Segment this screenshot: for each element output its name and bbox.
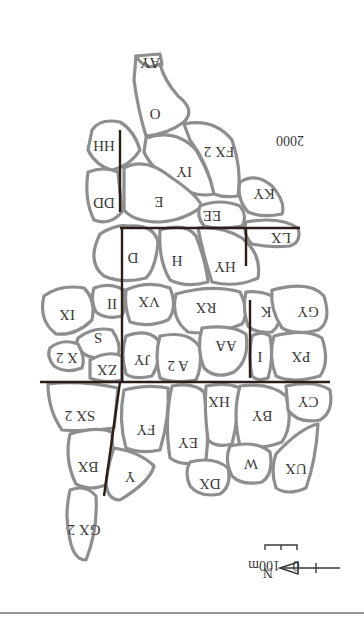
label-KY: KY xyxy=(253,186,275,202)
label-K: K xyxy=(260,304,271,320)
parcel-EY[interactable] xyxy=(167,385,207,464)
parcel-shapes xyxy=(43,54,331,560)
label-FX2: FX 2 xyxy=(204,144,234,160)
north-label: N xyxy=(263,565,273,580)
parcel-D[interactable] xyxy=(94,226,158,281)
label-O: O xyxy=(149,106,160,122)
label-DD: DD xyxy=(93,195,115,211)
label-PX: PX xyxy=(291,349,310,365)
label-AA: AA xyxy=(215,338,237,354)
label-VX: VX xyxy=(138,294,160,310)
label-HX: HX xyxy=(208,394,230,410)
label-LX: LX xyxy=(271,230,291,246)
label-IX: IX xyxy=(59,307,75,323)
label-DX: DX xyxy=(199,476,221,492)
label-HY: HY xyxy=(214,259,236,275)
label-I: I xyxy=(258,349,263,365)
label-E: E xyxy=(154,194,163,210)
label-BX: BX xyxy=(77,459,98,475)
label-RX: RX xyxy=(195,300,216,316)
label-II: II xyxy=(107,296,117,312)
label-FY: FY xyxy=(136,422,155,438)
label-W: W xyxy=(243,456,258,472)
label-IY: IY xyxy=(176,164,192,180)
label-EE: EE xyxy=(203,208,221,224)
label-JY: JY xyxy=(133,352,150,368)
label-A2: A 2 xyxy=(167,358,188,374)
bottom-divider xyxy=(0,612,364,614)
label-H: H xyxy=(171,253,182,269)
parcel-FY[interactable] xyxy=(121,386,168,451)
label-ZX: ZX xyxy=(97,362,117,378)
label-Y: Y xyxy=(124,469,135,485)
label-D: D xyxy=(127,250,138,266)
label-UX: UX xyxy=(285,461,307,477)
label-GX2: GX 2 xyxy=(68,522,101,538)
year-label: 2000 xyxy=(276,133,304,148)
parcel-map: AY O HH IY FX 2 DD E KY EE LX D H HY II … xyxy=(0,0,364,618)
label-SX2: SX 2 xyxy=(65,408,95,424)
label-EY: EY xyxy=(178,435,198,451)
label-AY: AY xyxy=(140,55,160,71)
label-CY: CY xyxy=(297,394,318,410)
label-S: S xyxy=(94,330,102,346)
label-HH: HH xyxy=(93,138,115,154)
label-X2: X 2 xyxy=(56,350,78,366)
label-GY: GY xyxy=(297,304,319,320)
label-BY: BY xyxy=(251,408,272,424)
